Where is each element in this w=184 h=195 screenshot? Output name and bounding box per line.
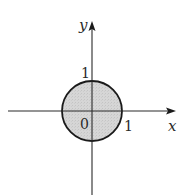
y-axis-label: y [78, 16, 88, 34]
figure-canvas: y x 1 1 0 [0, 0, 184, 195]
x-tick-one-label: 1 [124, 118, 133, 134]
origin-label: 0 [80, 116, 89, 132]
x-axis-label: x [168, 117, 177, 135]
y-tick-one-label: 1 [81, 65, 90, 81]
disk-diagram: y x 1 1 0 [0, 0, 184, 195]
